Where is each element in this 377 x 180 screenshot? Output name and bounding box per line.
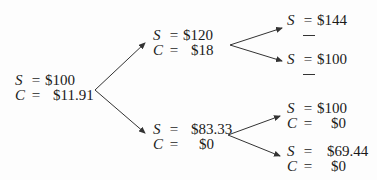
down-call-value: $0	[199, 137, 214, 152]
up-call-value: $18	[191, 43, 214, 58]
node-downdown: S=$69.44 C=$0	[287, 144, 368, 174]
downdown-call-value: $0	[331, 159, 346, 174]
edge-up-upup	[230, 28, 282, 45]
updown-call-dash	[303, 74, 315, 75]
up-stock-price: $120	[183, 28, 213, 43]
edge-root-down	[95, 90, 145, 133]
edge-root-up	[95, 43, 145, 90]
downdown-stock-price: $69.44	[327, 144, 368, 159]
upup-call-dash	[303, 35, 315, 36]
downup-stock-price: $100	[317, 101, 347, 116]
node-root: S=$100 C=$11.91	[15, 73, 94, 103]
downup-call-value: $0	[331, 116, 346, 131]
updown-stock-price: $100	[317, 52, 347, 67]
root-stock-price: $100	[45, 73, 75, 88]
node-updown: S=$100	[287, 52, 347, 82]
node-downup: S=$100 C=$0	[287, 101, 347, 131]
upup-stock-price: $144	[317, 13, 347, 28]
down-stock-price: $83.33	[191, 122, 232, 137]
edge-down-downup	[228, 116, 280, 135]
node-upup: S=$144	[287, 13, 347, 43]
node-down: S=$83.33 C=$0	[153, 122, 232, 152]
root-call-value: $11.91	[53, 88, 94, 103]
edge-up-updown	[230, 45, 282, 61]
edge-down-downdown	[228, 135, 280, 156]
node-up: S=$120 C=$18	[153, 28, 214, 58]
